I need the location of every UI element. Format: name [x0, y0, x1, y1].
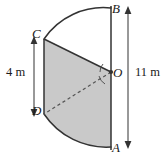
dimension-right-arrow-up — [125, 6, 132, 14]
label-point-b: B — [112, 2, 120, 15]
arc-b-to-c — [44, 8, 111, 39]
geometry-figure: B A O C D 4 m 11 m — [0, 0, 168, 155]
label-point-o: O — [113, 66, 122, 79]
label-dimension-right: 11 m — [135, 66, 160, 79]
label-dimension-left: 4 m — [6, 66, 25, 79]
label-point-c: C — [32, 27, 41, 40]
dimension-right-arrow-down — [125, 141, 132, 149]
label-point-d: D — [32, 104, 41, 117]
dimension-line-right — [125, 6, 132, 149]
label-point-a: A — [112, 141, 120, 154]
